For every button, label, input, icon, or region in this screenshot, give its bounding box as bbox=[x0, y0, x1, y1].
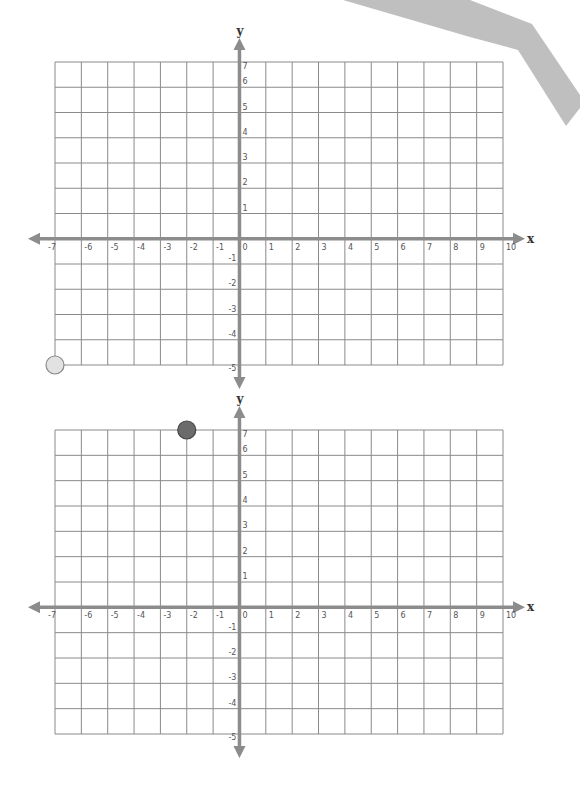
x-tick-label: 6 bbox=[401, 243, 406, 252]
x-tick-label: -4 bbox=[137, 611, 145, 620]
page-shadow bbox=[343, 0, 580, 126]
y-tick-label: 4 bbox=[242, 496, 247, 505]
y-tick-label: -5 bbox=[228, 364, 236, 373]
x-tick-label: -1 bbox=[216, 243, 224, 252]
y-tick-label: -3 bbox=[228, 305, 236, 314]
x-tick-label: -5 bbox=[111, 243, 119, 252]
x-axis-left-arrow-icon bbox=[28, 233, 40, 245]
x-tick-label: 1 bbox=[269, 243, 274, 252]
x-tick-label: 7 bbox=[427, 611, 432, 620]
x-tick-label: -2 bbox=[190, 243, 198, 252]
y-tick-label: -2 bbox=[228, 648, 236, 657]
y-axis-down-arrow-icon bbox=[233, 377, 245, 389]
x-tick-label: 2 bbox=[295, 611, 300, 620]
y-tick-label: 6 bbox=[242, 445, 247, 454]
x-tick-label: -3 bbox=[163, 611, 171, 620]
x-tick-label: 1 bbox=[269, 611, 274, 620]
y-axis-label: y bbox=[235, 24, 244, 38]
y-tick-label: 1 bbox=[242, 204, 247, 213]
coordinate-plane-bottom: xy-7-6-5-4-3-2-10123456789107654321-1-2-… bbox=[28, 392, 535, 758]
x-tick-label: 4 bbox=[348, 611, 353, 620]
x-axis-left-arrow-icon bbox=[28, 601, 40, 613]
x-tick-label: -6 bbox=[84, 243, 92, 252]
x-tick-label: -7 bbox=[48, 243, 56, 252]
y-tick-label: 5 bbox=[242, 471, 247, 480]
x-tick-label: 8 bbox=[453, 243, 458, 252]
y-tick-label: 7 bbox=[242, 430, 247, 439]
y-tick-label: 5 bbox=[242, 103, 247, 112]
x-tick-label: -2 bbox=[190, 611, 198, 620]
y-tick-label: -1 bbox=[228, 623, 236, 632]
x-tick-label: 2 bbox=[295, 243, 300, 252]
x-tick-label: 9 bbox=[480, 611, 485, 620]
y-tick-label: 2 bbox=[242, 547, 247, 556]
y-tick-label: 2 bbox=[242, 178, 247, 187]
y-tick-label: 6 bbox=[242, 77, 247, 86]
y-tick-label: -5 bbox=[228, 733, 236, 742]
light-point[interactable] bbox=[46, 356, 64, 374]
x-tick-label: -7 bbox=[48, 611, 56, 620]
x-tick-label: 7 bbox=[427, 243, 432, 252]
x-tick-label: -6 bbox=[84, 611, 92, 620]
coordinate-plane-top: xy-7-6-5-4-3-2-10123456789107654321-1-2-… bbox=[28, 24, 535, 389]
x-tick-label: 8 bbox=[453, 611, 458, 620]
y-tick-label: 1 bbox=[242, 572, 247, 581]
y-axis-up-arrow-icon bbox=[233, 38, 245, 50]
x-tick-label: 3 bbox=[322, 611, 327, 620]
y-tick-label: -4 bbox=[228, 699, 236, 708]
y-tick-label: -3 bbox=[228, 673, 236, 682]
x-tick-label: 0 bbox=[242, 611, 247, 620]
x-tick-label: -1 bbox=[216, 611, 224, 620]
x-tick-label: -3 bbox=[163, 243, 171, 252]
y-axis-down-arrow-icon bbox=[233, 746, 245, 758]
x-tick-label: 10 bbox=[506, 611, 516, 620]
y-axis-label: y bbox=[235, 392, 244, 406]
y-tick-label: -2 bbox=[228, 279, 236, 288]
x-tick-label: 5 bbox=[374, 611, 379, 620]
x-tick-label: -4 bbox=[137, 243, 145, 252]
x-tick-label: 9 bbox=[480, 243, 485, 252]
y-tick-label: -4 bbox=[228, 330, 236, 339]
y-axis-up-arrow-icon bbox=[233, 406, 245, 418]
x-axis-label: x bbox=[527, 600, 535, 614]
x-axis-label: x bbox=[527, 232, 535, 246]
x-tick-label: 6 bbox=[401, 611, 406, 620]
x-tick-label: 0 bbox=[242, 243, 247, 252]
y-tick-label: 3 bbox=[242, 153, 247, 162]
x-tick-label: -5 bbox=[111, 611, 119, 620]
y-tick-label: 4 bbox=[242, 128, 247, 137]
x-tick-label: 5 bbox=[374, 243, 379, 252]
dark-point[interactable] bbox=[178, 421, 196, 439]
y-tick-label: -1 bbox=[228, 254, 236, 263]
x-tick-label: 4 bbox=[348, 243, 353, 252]
y-tick-label: 3 bbox=[242, 521, 247, 530]
x-tick-label: 10 bbox=[506, 243, 516, 252]
x-tick-label: 3 bbox=[322, 243, 327, 252]
worksheet-canvas: xy-7-6-5-4-3-2-10123456789107654321-1-2-… bbox=[0, 0, 580, 795]
y-tick-label: 7 bbox=[242, 62, 247, 71]
